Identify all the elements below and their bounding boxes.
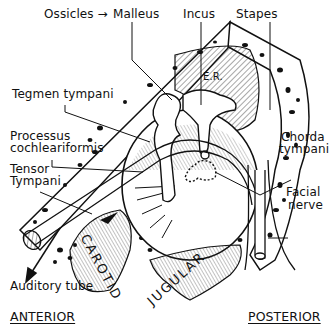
label-auditory-tube: Auditory tube — [10, 280, 93, 293]
label-anterior: ANTERIOR — [10, 310, 75, 323]
label-malleus: Malleus — [113, 8, 159, 21]
label-processus-2: cochleariformis — [10, 142, 104, 155]
label-facial-2: nerve — [288, 199, 323, 212]
label-incus: Incus — [183, 8, 215, 21]
arrow-icon: → — [98, 7, 108, 21]
label-tegmen-tympani: Tegmen tympani — [12, 88, 114, 101]
label-chorda-2: tympani — [279, 143, 329, 156]
label-stapes: Stapes — [236, 8, 278, 21]
label-posterior: POSTERIOR — [248, 310, 321, 323]
label-er: E.R. — [203, 70, 223, 83]
label-ossicles: Ossicles → — [44, 8, 108, 21]
label-tensor-2: Tympani — [10, 175, 61, 188]
